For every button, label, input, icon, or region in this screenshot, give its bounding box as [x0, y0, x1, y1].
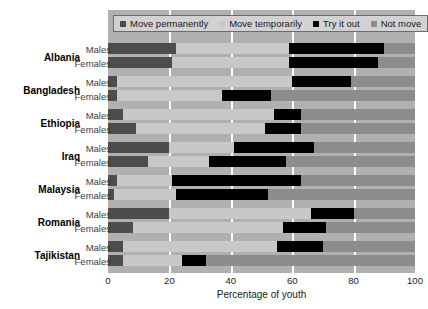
sex-label-iraq-females: Females [75, 157, 111, 168]
bar-segment-move-permanently[interactable] [108, 208, 169, 219]
bar-segment-move-permanently[interactable] [108, 142, 169, 153]
bar-segment-not-move[interactable] [301, 109, 415, 120]
bar-segment-move-temporarily[interactable] [172, 57, 289, 68]
bar-segment-not-move[interactable] [323, 241, 415, 252]
sex-label-ethiopia-females: Females [75, 124, 111, 135]
bar-segment-not-move[interactable] [384, 43, 415, 54]
bar-row-malaysia-females[interactable] [108, 189, 415, 200]
legend-item-move-temporarily[interactable]: Move temporarily [219, 19, 302, 29]
bar-row-albania-females[interactable] [108, 57, 415, 68]
bar-segment-move-permanently[interactable] [108, 156, 148, 167]
bar-row-romania-females[interactable] [108, 222, 415, 233]
square-swatch-icon [219, 21, 225, 27]
bar-segment-move-permanently[interactable] [108, 43, 176, 54]
bar-segment-move-temporarily[interactable] [148, 156, 209, 167]
sex-label-iraq-males: Males [86, 143, 111, 154]
bar-segment-move-temporarily[interactable] [123, 241, 277, 252]
bar-segment-try-it-out[interactable] [172, 175, 301, 186]
x-tick-label-0: 0 [105, 275, 110, 286]
sex-label-ethiopia-males: Males [86, 110, 111, 121]
legend-item-move-permanently[interactable]: Move permanently [120, 19, 208, 29]
x-axis-ticks: 020406080100 [0, 275, 423, 289]
country-label-albania: Albania [44, 52, 80, 63]
bar-segment-try-it-out[interactable] [182, 255, 207, 266]
bar-row-malaysia-males[interactable] [108, 175, 415, 186]
square-swatch-icon [120, 21, 126, 27]
x-tick-label-100: 100 [407, 275, 423, 286]
bar-segment-move-temporarily[interactable] [169, 142, 233, 153]
bar-segment-not-move[interactable] [326, 222, 415, 233]
sex-label-romania-males: Males [86, 209, 111, 220]
country-group-romania [108, 208, 415, 233]
x-tick-label-20: 20 [164, 275, 175, 286]
bar-row-romania-males[interactable] [108, 208, 415, 219]
bar-row-bangladesh-females[interactable] [108, 90, 415, 101]
bar-segment-not-move[interactable] [301, 175, 415, 186]
country-label-romania: Romania [38, 217, 80, 228]
bar-segment-move-temporarily[interactable] [117, 90, 221, 101]
bar-segment-not-move[interactable] [301, 123, 415, 134]
bar-segment-not-move[interactable] [351, 76, 415, 87]
bar-segment-move-permanently[interactable] [108, 222, 133, 233]
country-label-malaysia: Malaysia [38, 184, 80, 195]
bar-segment-try-it-out[interactable] [222, 90, 271, 101]
legend-item-not-move[interactable]: Not move [371, 19, 422, 29]
plot-area [108, 10, 415, 273]
bar-segment-try-it-out[interactable] [274, 109, 302, 120]
x-tick-label-80: 80 [348, 275, 359, 286]
bar-segment-try-it-out[interactable] [234, 142, 314, 153]
sex-label-malaysia-females: Females [75, 190, 111, 201]
bar-row-tajikistan-females[interactable] [108, 255, 415, 266]
bar-segment-move-temporarily[interactable] [117, 175, 172, 186]
country-group-albania [108, 43, 415, 68]
bar-segment-try-it-out[interactable] [289, 43, 384, 54]
country-label-tajikistan: Tajikistan [35, 250, 80, 261]
country-group-malaysia [108, 175, 415, 200]
bar-segment-try-it-out[interactable] [176, 189, 268, 200]
square-swatch-icon [371, 21, 377, 27]
bar-segment-move-permanently[interactable] [108, 123, 136, 134]
bar-segment-move-temporarily[interactable] [117, 76, 292, 87]
bar-segment-not-move[interactable] [271, 90, 415, 101]
bar-segment-try-it-out[interactable] [289, 57, 378, 68]
sex-label-tajikistan-females: Females [75, 256, 111, 267]
bar-segment-try-it-out[interactable] [277, 241, 323, 252]
bar-row-albania-males[interactable] [108, 43, 415, 54]
x-axis-title: Percentage of youth [108, 289, 415, 300]
bar-segment-move-temporarily[interactable] [123, 255, 181, 266]
bar-row-tajikistan-males[interactable] [108, 241, 415, 252]
bar-segment-move-permanently[interactable] [108, 57, 172, 68]
bar-segment-not-move[interactable] [286, 156, 415, 167]
bar-segment-not-move[interactable] [314, 142, 415, 153]
bar-row-bangladesh-males[interactable] [108, 76, 415, 87]
bar-segment-move-temporarily[interactable] [136, 123, 265, 134]
legend-item-try-it-out[interactable]: Try it out [313, 19, 360, 29]
country-group-iraq [108, 142, 415, 167]
bar-segment-not-move[interactable] [378, 57, 415, 68]
bar-segment-move-temporarily[interactable] [114, 189, 175, 200]
country-label-iraq: Iraq [62, 151, 80, 162]
bar-segment-move-temporarily[interactable] [176, 43, 290, 54]
bar-segment-move-temporarily[interactable] [123, 109, 273, 120]
bar-segment-not-move[interactable] [206, 255, 415, 266]
sex-label-bangladesh-males: Males [86, 77, 111, 88]
bar-segment-move-temporarily[interactable] [169, 208, 310, 219]
bar-segment-try-it-out[interactable] [209, 156, 286, 167]
sex-label-romania-females: Females [75, 223, 111, 234]
bar-segment-try-it-out[interactable] [283, 222, 326, 233]
bar-segment-try-it-out[interactable] [311, 208, 354, 219]
legend-item-label: Move temporarily [229, 19, 302, 29]
chart-legend: Move permanentlyMove temporarilyTry it o… [113, 15, 428, 32]
bar-row-iraq-females[interactable] [108, 156, 415, 167]
bar-row-ethiopia-males[interactable] [108, 109, 415, 120]
country-group-ethiopia [108, 109, 415, 134]
bar-segment-try-it-out[interactable] [265, 123, 302, 134]
country-label-bangladesh: Bangladesh [23, 85, 80, 96]
bar-row-iraq-males[interactable] [108, 142, 415, 153]
bar-segment-not-move[interactable] [354, 208, 415, 219]
bar-segment-move-temporarily[interactable] [133, 222, 283, 233]
bar-segment-try-it-out[interactable] [292, 76, 350, 87]
bar-segment-not-move[interactable] [268, 189, 415, 200]
bar-row-ethiopia-females[interactable] [108, 123, 415, 134]
